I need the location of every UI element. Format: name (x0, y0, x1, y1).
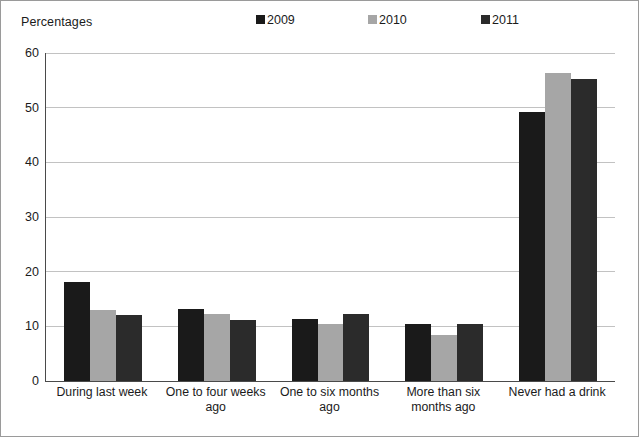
bar-group (501, 53, 615, 381)
square-swatch-icon (256, 15, 265, 24)
bar (431, 335, 457, 381)
bar-group (160, 53, 274, 381)
y-axis-tick-label: 40 (5, 155, 39, 169)
bar (571, 79, 597, 381)
legend-item-2011: 2011 (481, 14, 519, 27)
legend-label: 2010 (379, 14, 407, 27)
bar (457, 324, 483, 381)
y-axis-tick-label: 20 (5, 265, 39, 279)
y-axis-tick-label: 30 (5, 210, 39, 224)
bar-group (274, 53, 388, 381)
bar (64, 282, 90, 381)
bar (519, 112, 545, 382)
x-axis-category-label: One to four weeks ago (159, 385, 273, 415)
legend-label: 2009 (267, 14, 295, 27)
legend-label: 2011 (492, 14, 519, 27)
bar (292, 319, 318, 381)
bar (405, 324, 431, 381)
bar (204, 314, 230, 381)
legend-item-2010: 2010 (368, 14, 407, 27)
y-axis-tick-label: 50 (5, 101, 39, 115)
y-axis-tick-label: 10 (5, 319, 39, 333)
bar (178, 309, 204, 381)
y-axis-title: Percentages (21, 15, 92, 29)
bar-group (387, 53, 501, 381)
y-axis-tick-label: 60 (5, 46, 39, 60)
bar (116, 315, 142, 381)
bar (90, 310, 116, 381)
bar (318, 324, 344, 381)
bar-group (46, 53, 160, 381)
bar (545, 73, 571, 381)
bar (343, 314, 369, 381)
square-swatch-icon (368, 15, 377, 24)
x-axis-category-label: During last week (45, 385, 159, 415)
x-axis-category-label: Never had a drink (500, 385, 614, 415)
y-axis-tick-label: 0 (5, 374, 39, 388)
chart-legend: 2009 2010 2011 (256, 14, 576, 32)
square-swatch-icon (481, 15, 490, 24)
bar (230, 320, 256, 381)
x-axis-category-label: One to six months ago (273, 385, 387, 415)
legend-item-2009: 2009 (256, 14, 295, 27)
y-axis-tick-labels: 0102030405060 (1, 53, 39, 381)
bar-series-container (46, 53, 615, 381)
x-axis-category-label: More than six months ago (386, 385, 500, 415)
plot-area (45, 53, 615, 382)
bar-chart: Percentages 2009 2010 2011 0102030405060… (0, 0, 639, 437)
x-axis-category-labels: During last weekOne to four weeks agoOne… (45, 385, 614, 415)
